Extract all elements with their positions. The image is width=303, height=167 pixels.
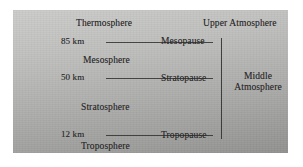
region-label-upper-atmosphere: Upper Atmosphere [203,18,277,29]
altitude-label-12km: 12 km [61,129,84,140]
layer-label-thermosphere: Thermosphere [76,18,132,29]
region-label-middle-atmosphere-line1: Middle [230,71,286,82]
layer-label-troposphere: Troposphere [81,141,130,152]
diagram-panel: 85 km 50 km 12 km Thermosphere Mesospher… [13,10,288,153]
layer-label-stratosphere: Stratosphere [81,102,130,113]
boundary-label-mesopause: Mesopause [161,36,205,47]
altitude-label-85km: 85 km [61,36,84,47]
boundary-label-stratopause: Stratopause [161,73,206,84]
altitude-label-50km: 50 km [61,72,84,83]
layer-label-mesosphere: Mesosphere [83,55,130,66]
region-label-middle-atmosphere-line2: Atmosphere [230,82,286,93]
region-label-middle-atmosphere: Middle Atmosphere [230,71,286,93]
boundary-label-tropopause: Tropopause [161,130,207,141]
atmosphere-layers-figure: 85 km 50 km 12 km Thermosphere Mesospher… [0,0,303,167]
middle-atmosphere-bracket-line [221,38,222,139]
